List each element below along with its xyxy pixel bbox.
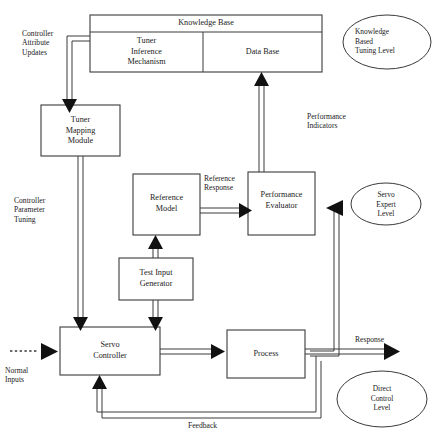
edge-test-input-to-reference-model bbox=[148, 235, 163, 258]
edge-test-input-to-servo-controller bbox=[148, 300, 163, 331]
label-normal-inputs: Normal Inputs bbox=[5, 366, 51, 385]
label-controller-parameter-tuning: Controller Parameter Tuning bbox=[14, 196, 76, 224]
label-servo-expert-level: Servo Expert Level bbox=[358, 190, 414, 219]
label-response: Response bbox=[355, 335, 411, 344]
edge-normal-inputs bbox=[10, 343, 58, 360]
label-reference-response: Reference Response bbox=[204, 174, 250, 193]
box-performance-evaluator bbox=[248, 172, 315, 235]
control-system-diagram: .bx { fill: #ffffff; stroke: #3a3a3a; st… bbox=[0, 0, 436, 446]
label-knowledge-based-tuning-level: Knowledge Based Tuning Level bbox=[355, 27, 431, 56]
label-direct-control-level: Direct Control Level bbox=[352, 384, 412, 413]
edge-servo-controller-to-process bbox=[160, 344, 225, 359]
box-tuner-mapping-module bbox=[41, 105, 120, 156]
edge-performance-indicators bbox=[254, 72, 269, 172]
label-performance-indicators: Performance Indicators bbox=[307, 112, 377, 131]
box-process bbox=[227, 330, 305, 378]
box-servo-controller bbox=[60, 327, 160, 375]
label-controller-attribute-updates: Controller Attribute Updates bbox=[22, 29, 82, 57]
edge-reference-response bbox=[200, 203, 252, 218]
box-test-input-generator bbox=[119, 258, 193, 300]
label-feedback: Feedback bbox=[188, 421, 244, 430]
edge-controller-parameter-tuning bbox=[73, 156, 88, 331]
box-reference-model bbox=[133, 174, 200, 235]
box-knowledge-base bbox=[90, 15, 322, 72]
